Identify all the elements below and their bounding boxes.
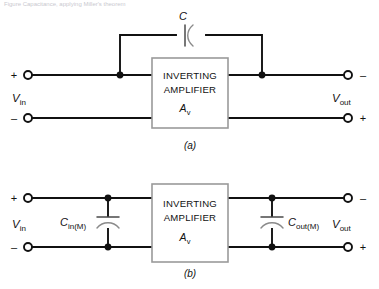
output-capacitor-plate-curved bbox=[261, 223, 283, 228]
input-voltage-subscript-b: in bbox=[20, 224, 26, 233]
output-terminal-top-b bbox=[344, 194, 352, 202]
figure-root: Figure Capacitance, applying Miller's th… bbox=[0, 0, 379, 289]
junction-dot-input-bottom-b bbox=[105, 244, 112, 251]
amplifier-gain-symbol-a: A bbox=[179, 102, 187, 114]
input-terminal-bottom-b bbox=[24, 243, 32, 251]
output-terminal-top-a bbox=[344, 71, 352, 79]
output-capacitor-branch-b bbox=[261, 198, 283, 247]
output-sign-top-a: – bbox=[360, 69, 367, 81]
output-capacitor-subscript-b: out(M) bbox=[296, 222, 319, 231]
junction-dot-input-a bbox=[117, 72, 124, 79]
input-capacitor-label-b: Cin(M) bbox=[60, 216, 87, 231]
output-sign-bottom-b: + bbox=[360, 241, 366, 253]
output-sign-top-b: – bbox=[360, 192, 367, 204]
amplifier-line1-a: INVERTING bbox=[163, 70, 217, 81]
input-terminal-top-a bbox=[24, 71, 32, 79]
output-voltage-subscript-b: out bbox=[340, 224, 352, 233]
amplifier-gain-symbol-b: A bbox=[179, 231, 187, 243]
input-capacitor-symbol-b: C bbox=[60, 216, 68, 228]
output-terminal-bottom-b bbox=[344, 243, 352, 251]
amplifier-line2-a: AMPLIFIER bbox=[164, 84, 216, 95]
output-capacitor-symbol-b: C bbox=[288, 216, 296, 228]
feedback-capacitor-label: C bbox=[179, 10, 187, 22]
output-capacitor-label-b: Cout(M) bbox=[288, 216, 319, 231]
junction-dot-output-a bbox=[259, 72, 266, 79]
input-sign-top-b: + bbox=[11, 192, 17, 204]
input-voltage-label-b: Vin bbox=[12, 218, 26, 233]
amplifier-line1-b: INVERTING bbox=[163, 198, 217, 209]
input-terminal-bottom-a bbox=[24, 114, 32, 122]
feedback-capacitor-symbol bbox=[185, 25, 193, 46]
input-sign-top-a: + bbox=[11, 69, 17, 81]
diagram-a: C INVERTING AMPLIFIER Av + – – + Vin Vou… bbox=[11, 10, 367, 151]
output-sign-bottom-a: + bbox=[360, 112, 366, 124]
output-voltage-label-b: Vout bbox=[332, 218, 352, 233]
caption-a: (a) bbox=[184, 140, 196, 151]
amplifier-block-b bbox=[152, 184, 228, 262]
junction-dot-output-bottom-b bbox=[269, 244, 276, 251]
input-capacitor-plate-curved bbox=[97, 223, 119, 228]
diagram-b: Cin(M) Cout(M) INVERTING AMPLIFIER Av + … bbox=[11, 184, 367, 279]
input-sign-bottom-b: – bbox=[11, 241, 18, 253]
input-voltage-subscript-a: in bbox=[20, 98, 26, 107]
junction-dot-input-top-b bbox=[105, 195, 112, 202]
input-voltage-label-a: Vin bbox=[12, 92, 26, 107]
amplifier-gain-subscript-a: v bbox=[187, 108, 191, 117]
output-terminal-bottom-a bbox=[344, 114, 352, 122]
amplifier-gain-subscript-b: v bbox=[187, 237, 191, 246]
input-capacitor-subscript-b: in(M) bbox=[68, 222, 87, 231]
output-voltage-subscript-a: out bbox=[340, 98, 352, 107]
junction-dot-output-top-b bbox=[269, 195, 276, 202]
capacitor-plate-curved bbox=[188, 25, 193, 46]
caption-b: (b) bbox=[184, 268, 196, 279]
top-partial-caption: Figure Capacitance, applying Miller's th… bbox=[4, 1, 126, 7]
amplifier-line2-b: AMPLIFIER bbox=[164, 212, 216, 223]
input-terminal-top-b bbox=[24, 194, 32, 202]
input-capacitor-branch-b bbox=[97, 198, 119, 247]
output-voltage-label-a: Vout bbox=[332, 92, 352, 107]
input-sign-bottom-a: – bbox=[11, 112, 18, 124]
